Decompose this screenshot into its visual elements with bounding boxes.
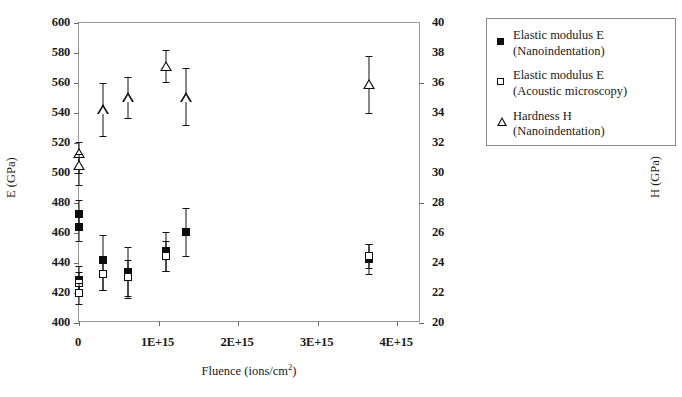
x-axis-tick-label: 0 <box>75 336 81 349</box>
open-square-marker <box>365 252 373 260</box>
triangle-inner <box>162 63 170 70</box>
x-axis-title: Fluence (ions/cm2) <box>202 362 297 379</box>
error-bar-cap <box>76 185 83 186</box>
chart-figure: E (GPa) H (GPa) Fluence (ions/cm2) Elast… <box>0 0 682 397</box>
y-axis-left-tick-label: 500 <box>30 166 70 179</box>
y-axis-left-tick-label: 480 <box>30 196 70 209</box>
data-point <box>118 267 138 287</box>
x-axis-tick <box>318 321 319 326</box>
x-axis-tick-label: 4E+15 <box>380 336 413 349</box>
legend-line-1: Elastic modulus E <box>513 68 604 82</box>
error-bar-cap <box>183 208 190 209</box>
data-point <box>69 156 89 176</box>
chart-legend: Elastic modulus E (Nanoindentation) Elas… <box>486 18 676 146</box>
y-axis-right-tick <box>419 323 424 324</box>
error-bar-cap <box>99 235 106 236</box>
y-axis-left-tick-label: 560 <box>30 76 70 89</box>
open-triangle-marker <box>122 92 134 102</box>
open-square-marker <box>75 289 83 297</box>
y-axis-right-tick-label: 24 <box>432 256 444 269</box>
error-bar-cap <box>163 82 170 83</box>
error-bar-cap <box>125 296 132 297</box>
y-axis-left-tick-label: 600 <box>30 16 70 29</box>
legend-line-2: (Nanoindentation) <box>513 124 605 138</box>
legend-item-elastic-nanoindentation: Elastic modulus E (Nanoindentation) <box>497 28 669 59</box>
error-bar-cap <box>366 244 373 245</box>
y-axis-left-tick-label: 400 <box>30 316 70 329</box>
error-bar-cap <box>163 232 170 233</box>
y-axis-right-tick-label: 36 <box>432 76 444 89</box>
legend-item-label: Hardness H (Nanoindentation) <box>513 109 605 140</box>
legend-line-1: Elastic modulus E <box>513 28 604 42</box>
error-bar-cap <box>76 154 83 155</box>
data-point <box>359 75 379 95</box>
error-bar-cap <box>183 68 190 69</box>
error-bar-cap <box>76 214 83 215</box>
error-bar-cap <box>183 256 190 257</box>
data-point <box>156 246 176 266</box>
legend-item-elastic-acoustic: Elastic modulus E (Acoustic microscopy) <box>497 68 669 99</box>
error-bar-cap <box>163 271 170 272</box>
error-bar-cap <box>125 118 132 119</box>
open-triangle-marker <box>160 61 172 71</box>
error-bar-cap <box>366 274 373 275</box>
y-axis-left-tick-label: 440 <box>30 256 70 269</box>
x-axis-tick-label: 2E+15 <box>220 336 253 349</box>
error-bar-cap <box>99 257 106 258</box>
open-triangle-marker <box>73 160 85 170</box>
open-triangle-icon <box>497 109 513 130</box>
y-axis-right-tick-label: 38 <box>432 46 444 59</box>
legend-item-hardness-nanoindentation: Hardness H (Nanoindentation) <box>497 109 669 140</box>
data-point <box>69 283 89 303</box>
x-axis-tick-label: 1E+15 <box>141 336 174 349</box>
y-axis-left-tick-label: 520 <box>30 136 70 149</box>
error-bar-cap <box>99 290 106 291</box>
y-axis-left-tick <box>74 83 79 84</box>
data-point <box>93 264 113 284</box>
y-axis-right-tick-label: 34 <box>432 106 444 119</box>
x-axis-tick <box>159 321 160 326</box>
y-axis-left-title: E (GPa) <box>4 157 19 198</box>
error-bar-cap <box>125 77 132 78</box>
x-axis-tick <box>238 321 239 326</box>
legend-line-1: Hardness H <box>513 109 572 123</box>
y-axis-left-tick-label: 460 <box>30 226 70 239</box>
data-point <box>69 217 89 237</box>
error-bar-cap <box>76 142 83 143</box>
error-bar-cap <box>125 260 132 261</box>
filled-square-marker <box>75 223 83 231</box>
error-bar-cap <box>76 200 83 201</box>
y-axis-right-tick <box>419 203 424 204</box>
error-bar-cap <box>125 247 132 248</box>
data-point <box>93 100 113 120</box>
triangle-inner <box>182 95 190 102</box>
error-bar-cap <box>99 83 106 84</box>
y-axis-right-tick <box>419 83 424 84</box>
data-point <box>176 222 196 242</box>
y-axis-left-tick-label: 580 <box>30 46 70 59</box>
x-axis-tick <box>79 321 80 326</box>
triangle-inner <box>99 107 107 114</box>
error-bar-cap <box>183 125 190 126</box>
x-axis-title-base: Fluence (ions/cm <box>202 364 288 378</box>
y-axis-right-tick-label: 32 <box>432 136 444 149</box>
error-bar-cap <box>125 298 132 299</box>
y-axis-left-tick-label: 420 <box>30 286 70 299</box>
legend-line-2: (Acoustic microscopy) <box>513 84 627 98</box>
y-axis-right-tick-label: 20 <box>432 316 444 329</box>
x-axis-tick-label: 3E+15 <box>300 336 333 349</box>
filled-square-marker <box>182 228 190 236</box>
y-axis-left-tick-label: 540 <box>30 106 70 119</box>
data-point <box>176 88 196 108</box>
triangle-inner <box>124 95 132 102</box>
y-axis-right-tick-label: 30 <box>432 166 444 179</box>
y-axis-left-tick <box>74 53 79 54</box>
error-bar-cap <box>163 50 170 51</box>
error-bar-cap <box>366 113 373 114</box>
x-axis-title-tail: ) <box>292 364 296 378</box>
legend-item-label: Elastic modulus E (Nanoindentation) <box>513 28 605 59</box>
y-axis-right-tick-label: 26 <box>432 226 444 239</box>
open-square-marker <box>99 270 107 278</box>
y-axis-right-tick-label: 28 <box>432 196 444 209</box>
legend-line-2: (Nanoindentation) <box>513 44 605 58</box>
